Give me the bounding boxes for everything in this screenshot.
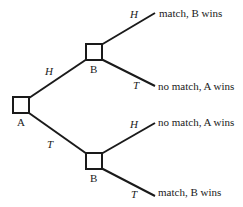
node-upper-b	[86, 44, 102, 60]
node-lower-b	[86, 153, 102, 169]
outcome-label: match, B wins	[159, 7, 222, 19]
outcome-label: match, B wins	[158, 186, 221, 198]
edge-lower-b-heads	[101, 123, 155, 154]
edge-label-lower-t: T	[131, 188, 138, 200]
edge-upper-b-tails	[101, 59, 155, 86]
edge-lower-b-tails	[101, 168, 155, 196]
node-a	[13, 97, 29, 113]
edge-label-a-upper: H	[44, 65, 54, 77]
outcome-label: no match, A wins	[158, 116, 234, 128]
edge-label-a-lower: T	[47, 138, 54, 150]
node-lower-b-label: B	[90, 172, 97, 184]
edge-label-upper-h: H	[129, 8, 139, 20]
edge-label-upper-t: T	[133, 79, 140, 91]
edge-a-to-lower-b	[29, 113, 87, 154]
outcome-label: no match, A wins	[158, 80, 234, 92]
game-tree: A B B H T H T H T match, B wins no match…	[0, 0, 243, 207]
edge-upper-b-heads	[101, 13, 155, 45]
node-a-label: A	[17, 116, 25, 128]
node-upper-b-label: B	[90, 63, 97, 75]
edge-a-to-upper-b	[29, 59, 87, 98]
edge-label-lower-h: H	[129, 118, 139, 130]
